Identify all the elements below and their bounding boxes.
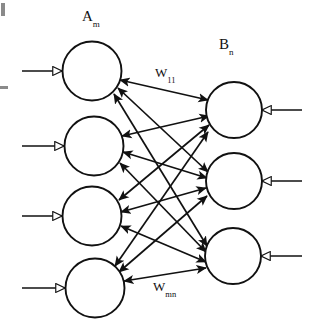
weight-label-first: W11 [155, 64, 175, 83]
neuron-a2[interactable] [65, 117, 124, 176]
connection-a1-b1 [120, 80, 208, 100]
connection-a1-b2 [118, 88, 208, 172]
layer-a-label: Am [82, 8, 100, 27]
weight-label-first-subscript: 11 [167, 75, 175, 85]
layer-b-label: Bn [219, 36, 234, 55]
connection-a4-b1 [115, 132, 208, 266]
diagram-canvas: Am Bn W11 Wmn [0, 0, 316, 334]
scan-artifact-middle [0, 86, 8, 89]
layer-a-label-subscript: m [93, 19, 100, 29]
layer-b-label-base: B [219, 36, 229, 52]
layer-a-label-base: A [82, 8, 93, 24]
connection-lines [114, 80, 209, 281]
connection-a2-b2 [123, 152, 207, 178]
neuron-b1[interactable] [206, 82, 262, 138]
scan-artifact-top [1, 3, 5, 16]
layer-b-label-subscript: n [229, 47, 234, 57]
layer-b-nodes [205, 82, 262, 284]
neuron-b3[interactable] [205, 228, 261, 284]
weight-label-last-subscript: mn [165, 289, 176, 299]
connection-a3-b3 [121, 226, 206, 262]
weight-label-first-base: W [155, 65, 167, 80]
neuron-b2[interactable] [206, 153, 262, 209]
connection-a1-b3 [114, 94, 207, 246]
layer-a-nodes [63, 42, 125, 318]
neuron-a3[interactable] [63, 187, 122, 246]
neuron-a4[interactable] [66, 259, 125, 318]
neuron-a1[interactable] [63, 42, 122, 101]
weight-label-last-base: W [153, 279, 165, 294]
connection-a3-b1 [119, 125, 209, 200]
weight-label-last: Wmn [153, 278, 176, 297]
